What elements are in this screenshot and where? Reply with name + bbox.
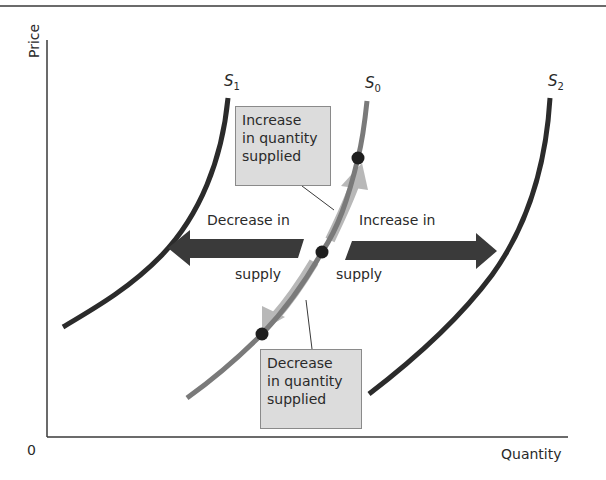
decrease-supply-label-bottom: supply (235, 266, 281, 282)
origin-label: 0 (27, 442, 36, 458)
increase-qs-line-1: Increase (242, 111, 324, 129)
s0-label: S0 (365, 74, 381, 94)
increase-qs-line-2: in quantity (242, 129, 324, 147)
decrease-qs-line-3: supplied (267, 390, 355, 408)
increase-qs-leader (302, 186, 334, 210)
increase-supply-arrow-icon (345, 233, 497, 269)
s1-curve (63, 98, 228, 327)
decrease-quantity-supplied-box: Decrease in quantity supplied (260, 349, 362, 429)
s1-label-sub: 1 (234, 81, 240, 92)
upper-point (352, 152, 365, 165)
s0-label-main: S (365, 74, 375, 92)
y-axis-label: Price (26, 24, 42, 58)
increase-supply-label-bottom: supply (336, 266, 382, 282)
s2-label-main: S (548, 72, 558, 90)
middle-point (316, 246, 329, 259)
increase-qs-line-3: supplied (242, 147, 324, 165)
increase-supply-label-top: Increase in (359, 212, 435, 228)
decrease-qs-line-2: in quantity (267, 372, 355, 390)
s1-label-main: S (224, 72, 234, 90)
x-axis-label: Quantity (501, 446, 562, 462)
s0-label-sub: 0 (375, 83, 381, 94)
increase-quantity-supplied-box: Increase in quantity supplied (235, 106, 331, 186)
s2-label-sub: 2 (558, 81, 564, 92)
decrease-qs-leader (306, 300, 312, 349)
decrease-supply-label-top: Decrease in (207, 212, 290, 228)
s2-label: S2 (548, 72, 564, 92)
lower-point (256, 328, 269, 341)
decrease-supply-arrow-icon (168, 230, 304, 266)
decrease-qs-line-1: Decrease (267, 354, 355, 372)
s1-label: S1 (224, 72, 240, 92)
